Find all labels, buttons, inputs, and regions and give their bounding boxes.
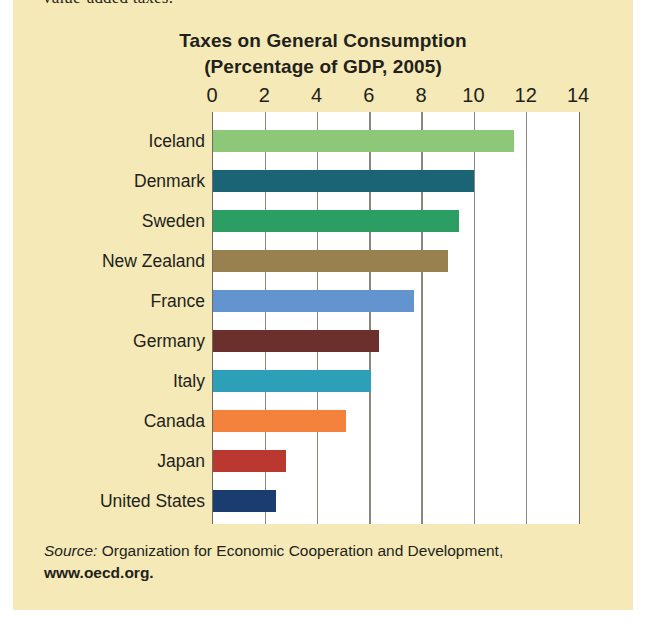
cutoff-body-text: value-added taxes.: [43, 0, 173, 8]
chart-title: Taxes on General Consumption: [13, 28, 633, 54]
chart-subtitle: (Percentage of GDP, 2005): [13, 54, 633, 80]
category-label: Japan: [15, 451, 205, 472]
bar: [213, 250, 448, 272]
chart-title-block: Taxes on General Consumption (Percentage…: [13, 28, 633, 80]
x-tick-label: 12: [515, 84, 537, 107]
category-label: Iceland: [15, 131, 205, 152]
category-label: Italy: [15, 371, 205, 392]
category-label: Denmark: [15, 171, 205, 192]
y-axis-category-labels: IcelandDenmarkSwedenNew ZealandFranceGer…: [13, 112, 205, 524]
x-tick-label: 2: [259, 84, 270, 107]
bar: [213, 490, 276, 512]
bar: [213, 330, 379, 352]
category-label: France: [15, 291, 205, 312]
source-url[interactable]: www.oecd.org.: [44, 562, 614, 584]
source-note: Source: Organization for Economic Cooper…: [44, 540, 614, 584]
category-label: Sweden: [15, 211, 205, 232]
x-tick-label: 8: [416, 84, 427, 107]
bar: [213, 290, 414, 312]
x-axis-tick-labels: 02468101214: [212, 84, 578, 110]
gridline: [526, 112, 527, 524]
plot-area: [212, 112, 580, 524]
bar: [213, 170, 474, 192]
bar: [213, 210, 459, 232]
category-label: United States: [15, 491, 205, 512]
category-label: Germany: [15, 331, 205, 352]
x-tick-label: 6: [363, 84, 374, 107]
source-label: Source:: [44, 542, 97, 559]
x-tick-label: 14: [567, 84, 589, 107]
x-tick-label: 10: [462, 84, 484, 107]
category-label: Canada: [15, 411, 205, 432]
source-text: Organization for Economic Cooperation an…: [97, 542, 503, 559]
x-tick-label: 4: [311, 84, 322, 107]
bar: [213, 410, 346, 432]
bar: [213, 450, 286, 472]
x-tick-label: 0: [206, 84, 217, 107]
figure-panel: value-added taxes. Taxes on General Cons…: [13, 0, 633, 610]
bar: [213, 370, 371, 392]
bar: [213, 130, 514, 152]
category-label: New Zealand: [15, 251, 205, 272]
